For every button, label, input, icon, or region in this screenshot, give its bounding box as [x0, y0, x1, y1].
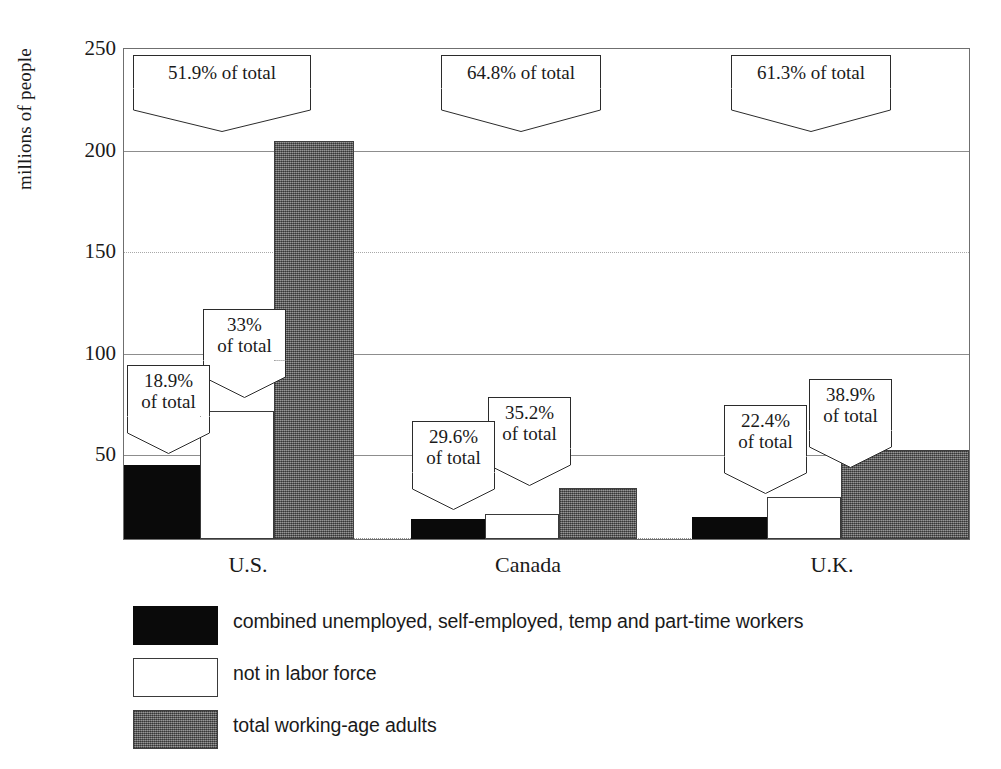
chart-legend: combined unemployed, self-employed, temp… [0, 600, 1001, 756]
legend-item-not-in-labor-force: not in labor force [0, 652, 1001, 704]
bar-canada-total-working-age-adults[interactable] [559, 488, 637, 539]
callout-us-total-working-age-adults: 51.9% of total [133, 55, 311, 132]
y-tick-100: 100 [38, 343, 116, 364]
x-tick-label-canada: Canada [458, 552, 598, 578]
callout-line-1: 64.8% of total [448, 62, 594, 83]
legend-item-combined-workers: combined unemployed, self-employed, temp… [0, 600, 1001, 652]
callout-canada-not-in-labor-force: 35.2% of total [488, 397, 571, 486]
callout-line-2: of total [731, 431, 800, 452]
y-tick-200: 200 [38, 140, 116, 161]
y-tick-150: 150 [38, 241, 116, 262]
callout-tail-icon [809, 430, 892, 468]
y-tick-250: 250 [38, 38, 116, 59]
bar-canada-combined-workers[interactable] [411, 519, 485, 539]
y-tick-50: 50 [38, 444, 116, 465]
callout-tail-icon [203, 360, 286, 398]
legend-swatch-white [133, 658, 218, 697]
legend-item-total-working-age-adults: total working-age adults [0, 704, 1001, 756]
y-axis-title: millions of people [14, 0, 36, 190]
y-axis-tick-labels: 250 200 150 100 50 [38, 0, 116, 560]
x-tick-label-uk: U.K. [772, 552, 892, 578]
callout-uk-combined-workers: 22.4% of total [724, 405, 807, 494]
callout-line-1: 29.6% [419, 426, 488, 447]
callout-canada-total-working-age-adults: 64.8% of total [441, 55, 601, 132]
legend-label-not-in-labor-force: not in labor force [233, 662, 376, 685]
callout-line-2: of total [816, 405, 885, 426]
callout-line-1: 33% [210, 314, 279, 335]
callout-line-1: 38.9% [816, 384, 885, 405]
callout-line-2: of total [495, 423, 564, 444]
legend-label-total-working-age-adults: total working-age adults [233, 714, 437, 737]
legend-label-combined-workers: combined unemployed, self-employed, temp… [233, 610, 803, 633]
callout-tail-icon [731, 88, 891, 132]
callout-line-1: 61.3% of total [738, 62, 884, 83]
bar-uk-combined-workers[interactable] [692, 517, 767, 539]
callout-tail-icon [441, 88, 601, 132]
callout-line-2: of total [134, 391, 203, 412]
plot-area: 51.9% of total 33% of total 18.9% of tot… [123, 48, 970, 540]
callout-tail-icon [412, 472, 495, 510]
callout-line-2: of total [210, 335, 279, 356]
callout-canada-combined-workers: 29.6% of total [412, 421, 495, 510]
callout-tail-icon [488, 448, 571, 486]
callout-tail-icon [724, 456, 807, 494]
callout-line-2: of total [419, 447, 488, 468]
x-tick-label-us: U.S. [188, 552, 308, 578]
bar-us-combined-workers[interactable] [124, 465, 200, 539]
callout-tail-icon [133, 88, 311, 132]
callout-line-1: 22.4% [731, 410, 800, 431]
bar-canada-not-in-labor-force[interactable] [485, 514, 559, 539]
bar-chart-figure: millions of people 250 200 150 100 50 [0, 0, 1001, 769]
bar-us-not-in-labor-force[interactable] [200, 411, 274, 539]
gridline-200 [124, 151, 969, 152]
gridline-150 [124, 252, 969, 253]
bar-us-total-working-age-adults[interactable] [274, 141, 354, 539]
callout-line-1: 35.2% [495, 402, 564, 423]
callout-line-1: 51.9% of total [140, 62, 304, 83]
callout-us-not-in-labor-force: 33% of total [203, 309, 286, 398]
callout-uk-not-in-labor-force: 38.9% of total [809, 379, 892, 468]
callout-uk-total-working-age-adults: 61.3% of total [731, 55, 891, 132]
callout-us-combined-workers: 18.9% of total [127, 365, 210, 454]
legend-swatch-black [133, 606, 218, 645]
callout-line-1: 18.9% [134, 370, 203, 391]
bar-uk-not-in-labor-force[interactable] [767, 497, 841, 539]
callout-tail-icon [127, 416, 210, 454]
legend-swatch-gray [133, 710, 218, 749]
